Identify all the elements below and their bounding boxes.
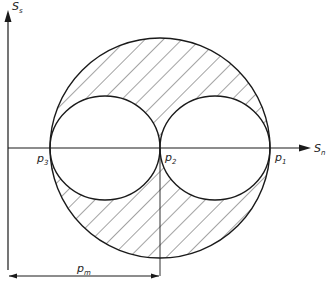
hatched-region xyxy=(0,0,327,283)
mohr-circle-diagram: Ss Sn p3 p2 p1 pm xyxy=(0,0,327,283)
